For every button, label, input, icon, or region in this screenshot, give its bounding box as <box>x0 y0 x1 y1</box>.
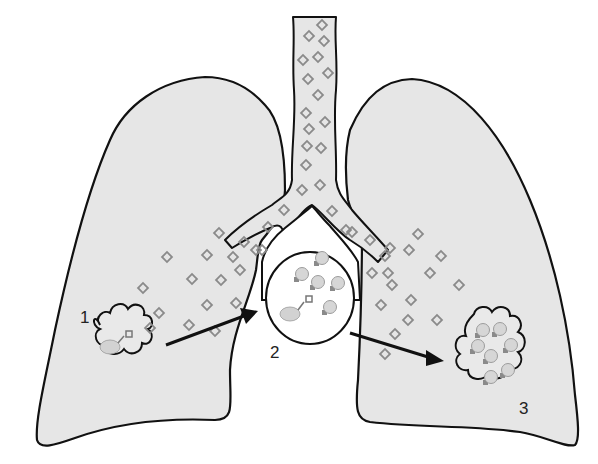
left-lung <box>37 77 285 446</box>
bacterium-head <box>494 323 507 336</box>
lymph-node-circle <box>266 252 354 344</box>
bacterium-head <box>332 277 345 290</box>
bacterium-head <box>324 301 337 314</box>
bacterium-head <box>312 276 325 289</box>
bacterium-body <box>100 340 120 354</box>
stage-3-label: 3 <box>519 399 528 418</box>
bacterium-head <box>472 340 485 353</box>
right-lung <box>346 79 578 445</box>
bacterium-head <box>477 324 490 337</box>
stage-2-label: 2 <box>270 343 279 362</box>
bacterium-head <box>316 252 329 265</box>
bacterium-head <box>485 371 498 384</box>
stage-1-label: 1 <box>80 308 89 327</box>
bacterium-head <box>505 339 518 352</box>
lung-diagram: 1 2 3 <box>0 0 598 464</box>
bacterium-body <box>280 307 300 321</box>
bacterium-head <box>296 268 309 281</box>
bacterium-head <box>485 350 498 363</box>
bacterium-head <box>502 364 515 377</box>
